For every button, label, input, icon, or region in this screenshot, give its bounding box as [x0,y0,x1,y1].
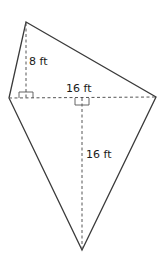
diagonal-label: 16 ft [66,83,92,94]
upper-height-label: 8 ft [29,56,48,67]
horizontal-diagonal-dashed [9,97,156,98]
lower-height-label: 16 ft [86,149,112,160]
kite-diagram [0,0,162,260]
